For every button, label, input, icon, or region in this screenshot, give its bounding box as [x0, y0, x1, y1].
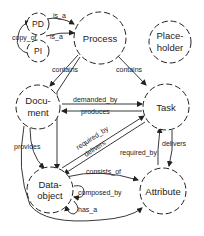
node-pd[interactable]: PD: [27, 13, 49, 35]
node-placeholder[interactable]: Place- holder: [149, 21, 191, 63]
node-placeholder-line2: holder: [157, 42, 183, 53]
edge-label-contains-2: contains: [116, 66, 143, 73]
node-document[interactable]: Docu- ment: [16, 85, 60, 129]
edge-label-composed-by: composed_by: [78, 189, 122, 197]
node-document-line2: ment: [27, 107, 48, 118]
edge-label-contains-1: contains: [52, 66, 79, 73]
node-pd-label: PD: [32, 19, 44, 29]
node-attribute-label: Attribute: [145, 186, 180, 197]
edge-task-delivers-attr: [169, 130, 172, 166]
node-dataobject-line1: Data-: [38, 179, 61, 190]
edge-label-is-a-2: is_a: [50, 33, 63, 41]
node-task-label: Task: [156, 102, 176, 113]
edge-label-delivers-2: delivers: [162, 140, 187, 147]
edge-attr-required-by-task: [158, 128, 160, 165]
node-process-label: Process: [83, 33, 118, 44]
edge-label-demanded-by: demanded_by: [73, 96, 118, 104]
edge-label-consists-of: consists_of: [86, 168, 121, 176]
edge-label-has-a: has_a: [78, 206, 97, 214]
edge-label-is-a-1: is_a: [53, 12, 66, 20]
edge-label-produces: produces: [81, 108, 110, 116]
node-document-line1: Docu-: [25, 95, 50, 106]
node-task[interactable]: Task: [143, 84, 189, 130]
edge-label-required-by-2: required_by: [120, 149, 157, 157]
node-dataobject[interactable]: Data- object: [27, 167, 73, 213]
node-placeholder-line1: Place-: [157, 30, 184, 41]
edge-pd-is-a-process: [46, 18, 74, 24]
node-pi-label: PI: [34, 46, 42, 56]
node-attribute[interactable]: Attribute: [140, 168, 186, 214]
node-process[interactable]: Process: [74, 12, 126, 64]
node-dataobject-line2: object: [37, 190, 63, 201]
ontology-diagram: is_a is_a copy_of contains contains dema…: [0, 0, 204, 236]
node-pi[interactable]: PI: [27, 40, 49, 62]
edge-label-provides: provides: [14, 143, 41, 151]
